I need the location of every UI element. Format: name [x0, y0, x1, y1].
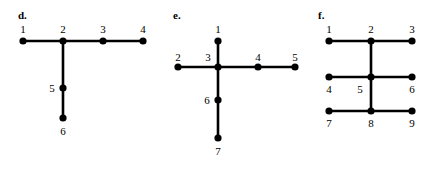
- graph-node: [325, 107, 332, 114]
- figure-f: f. 123456789: [300, 0, 440, 169]
- node-label-2: 2: [364, 24, 378, 35]
- node-label-9: 9: [405, 118, 419, 129]
- graph-node: [408, 107, 415, 114]
- graph-node: [367, 107, 374, 114]
- node-label-4: 4: [322, 84, 336, 95]
- graph-node: [367, 73, 374, 80]
- graph-node: [408, 37, 415, 44]
- graph-node: [367, 37, 374, 44]
- graph-node: [325, 37, 332, 44]
- graph-node: [408, 73, 415, 80]
- node-label-7: 7: [322, 118, 336, 129]
- node-label-5: 5: [353, 84, 367, 95]
- graph-node: [325, 73, 332, 80]
- figure-panel: d. 123456 e. 1234567 f. 123456789: [0, 0, 440, 169]
- node-label-1: 1: [322, 24, 336, 35]
- node-label-8: 8: [364, 118, 378, 129]
- node-label-6: 6: [405, 84, 419, 95]
- node-label-3: 3: [405, 24, 419, 35]
